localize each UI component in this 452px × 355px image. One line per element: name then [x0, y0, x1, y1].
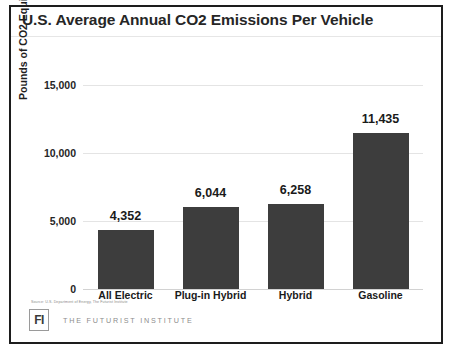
- bar[interactable]: [268, 204, 324, 289]
- y-tick-label: 5,000: [28, 215, 76, 227]
- bar-slot: 6,044: [168, 37, 253, 287]
- title-bar: U.S. Average Annual CO2 Emissions Per Ve…: [11, 7, 441, 37]
- bar-value-label: 6,044: [168, 186, 253, 200]
- y-tick-label: 0: [28, 283, 76, 295]
- x-axis-categories: All ElectricPlug-in HybridHybridGasoline: [83, 289, 423, 303]
- bar-value-label: 4,352: [83, 209, 168, 223]
- x-tick-label-text: Plug-in Hybrid: [168, 289, 253, 301]
- bar[interactable]: [353, 133, 409, 289]
- page-title: U.S. Average Annual CO2 Emissions Per Ve…: [22, 11, 373, 29]
- bar-slot: 4,352: [83, 37, 168, 287]
- y-tick-label: 15,000: [28, 79, 76, 91]
- bar-value-label: 11,435: [338, 112, 423, 126]
- chart-frame: U.S. Average Annual CO2 Emissions Per Ve…: [9, 5, 443, 344]
- futurist-institute-logo-icon: FI: [29, 309, 49, 331]
- bar-slot: 6,258: [253, 37, 338, 287]
- bar-series: 4,3526,0446,25811,435: [83, 37, 423, 287]
- footer-logo-text: THE FUTURIST INSTITUTE: [63, 316, 194, 325]
- x-tick-label-text: Hybrid: [253, 289, 338, 301]
- y-axis-ticks: 05,00010,00015,000: [28, 37, 76, 287]
- bar[interactable]: [98, 230, 154, 289]
- source-note: Source: U.S. Department of Energy, The F…: [31, 300, 128, 304]
- x-tick-label-text: Gasoline: [338, 289, 423, 301]
- plot-area: Pounds of CO2 Equivalent 05,00010,00015,…: [11, 37, 441, 287]
- bar-value-label: 6,258: [253, 183, 338, 197]
- y-tick-label: 10,000: [28, 147, 76, 159]
- footer-logo: FI THE FUTURIST INSTITUTE: [29, 307, 194, 333]
- bar-slot: 11,435: [338, 37, 423, 287]
- bar[interactable]: [183, 207, 239, 289]
